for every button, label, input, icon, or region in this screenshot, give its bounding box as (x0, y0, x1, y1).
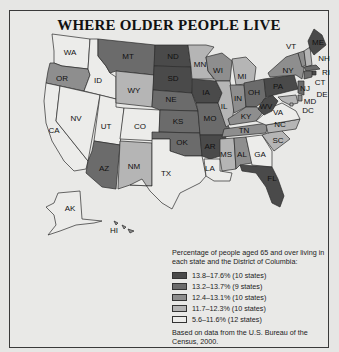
legend-item: 12.4–13.1% (10 states) (172, 292, 332, 303)
label-ks: KS (173, 117, 184, 126)
legend-label: 11.7–12.3% (10 states) (192, 304, 266, 313)
label-mn: MN (194, 60, 207, 69)
label-ia: IA (202, 88, 210, 97)
legend-swatch (172, 316, 187, 323)
label-hi: HI (110, 226, 118, 235)
label-la: LA (205, 164, 215, 173)
label-il: IL (221, 102, 228, 111)
label-mt: MT (122, 52, 134, 61)
map-frame: WHERE OLDER PEOPLE LIVE (9, 10, 329, 348)
label-md: MD (304, 97, 317, 106)
label-ms: MS (220, 150, 232, 159)
label-nc: NC (274, 120, 286, 129)
label-ct: CT (315, 78, 326, 87)
label-ok: OK (176, 138, 188, 147)
label-ar: AR (204, 142, 215, 151)
label-tn: TN (239, 126, 250, 135)
state-dc[interactable] (290, 103, 293, 106)
legend-label: 13.2–13.7% (9 states) (192, 282, 262, 291)
label-ny: NY (282, 66, 294, 75)
state-ak[interactable] (46, 191, 102, 235)
label-ut: UT (101, 122, 112, 131)
label-wv: WV (260, 102, 274, 111)
legend-item: 13.2–13.7% (9 states) (172, 281, 332, 292)
label-nm: NM (128, 162, 141, 171)
legend-label: 12.4–13.1% (10 states) (192, 293, 266, 302)
state-ct[interactable] (304, 71, 312, 79)
legend-swatch (172, 305, 187, 312)
label-wi: WI (213, 66, 223, 75)
label-al: AL (237, 150, 247, 159)
legend-swatch (172, 294, 187, 301)
label-ga: GA (254, 150, 266, 159)
label-nv: NV (70, 114, 82, 123)
legend-label: 13.8–17.6% (10 states) (192, 271, 266, 280)
label-or: OR (56, 74, 68, 83)
label-va: VA (273, 108, 284, 117)
label-mi: MI (238, 72, 247, 81)
legend-swatch (172, 283, 187, 290)
state-ri[interactable] (312, 71, 316, 75)
label-co: CO (134, 122, 146, 131)
legend-label: 5.6–11.6% (12 states) (192, 315, 262, 324)
label-nj: NJ (300, 84, 310, 93)
legend: Percentage of people aged 65 and over li… (172, 248, 332, 346)
label-nh: NH (318, 54, 330, 63)
label-id: ID (94, 76, 102, 85)
label-nd: ND (167, 52, 179, 61)
label-oh: OH (248, 88, 260, 97)
legend-item: 11.7–12.3% (10 states) (172, 303, 332, 314)
label-dc: DC (302, 106, 314, 115)
label-ky: KY (241, 112, 252, 121)
label-az: AZ (99, 164, 109, 173)
label-vt: VT (286, 42, 296, 51)
label-wy: WY (128, 86, 142, 95)
legend-swatch (172, 272, 187, 279)
legend-item: 13.8–17.6% (10 states) (172, 270, 332, 281)
label-pa: PA (273, 82, 284, 91)
label-me: ME (312, 38, 324, 47)
state-de[interactable] (298, 95, 302, 101)
legend-source: Based on data from the U.S. Bureau of th… (172, 328, 332, 346)
label-ca: CA (48, 126, 60, 135)
legend-item: 5.6–11.6% (12 states) (172, 314, 332, 325)
label-ak: AK (65, 204, 76, 213)
label-in: IN (234, 94, 242, 103)
label-ne: NE (165, 95, 176, 104)
label-fl: FL (267, 174, 277, 183)
label-sc: SC (272, 136, 283, 145)
label-de: DE (316, 90, 327, 99)
label-wa: WA (64, 48, 77, 57)
label-mo: MO (204, 114, 217, 123)
legend-intro: Percentage of people aged 65 and over li… (172, 248, 332, 266)
label-sd: SD (167, 74, 178, 83)
label-ri: RI (322, 68, 330, 77)
state-fl[interactable] (240, 165, 284, 207)
label-tx: TX (161, 169, 172, 178)
